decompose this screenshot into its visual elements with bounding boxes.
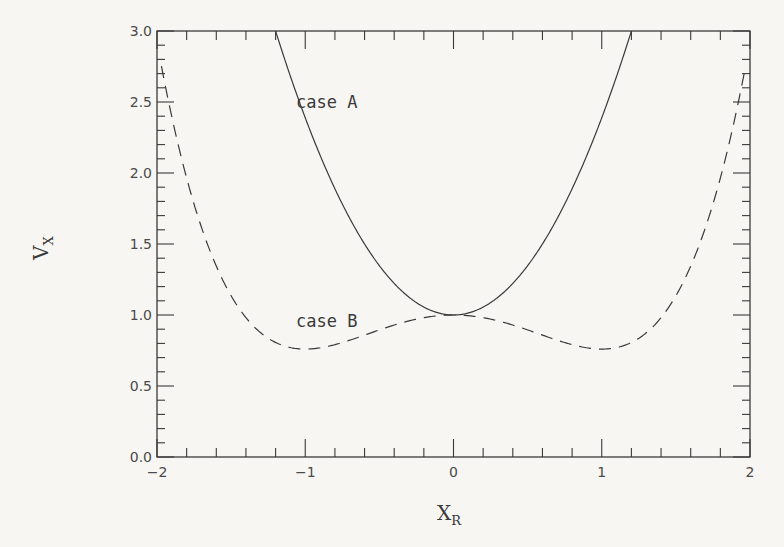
y-axis-label: VX — [29, 236, 56, 261]
svg-text:VX: VX — [29, 236, 56, 261]
tick-labels: −2−10120.00.51.01.52.02.53.0 — [130, 23, 755, 480]
y-axis-label-main: V — [29, 245, 53, 261]
tick-label: 1.0 — [130, 307, 152, 323]
y-axis-label-sub: X — [41, 236, 56, 246]
series-case-a — [276, 31, 632, 315]
annotation-case-b: case B — [296, 311, 357, 331]
annotation-case-a: case A — [296, 92, 357, 112]
tick-label: 0 — [449, 464, 458, 480]
x-axis-label: XR — [437, 501, 462, 528]
x-axis-label-main: X — [437, 501, 452, 525]
tick-label: 3.0 — [130, 23, 152, 39]
tick-label: −2 — [147, 464, 168, 480]
plot-frame — [157, 31, 750, 457]
tick-label: 2.5 — [130, 94, 152, 110]
tick-label: 1.5 — [130, 236, 152, 252]
chart: −2−10120.00.51.01.52.02.53.0 case A case… — [0, 0, 784, 547]
tick-label: 0.5 — [130, 378, 152, 394]
tick-label: 2.0 — [130, 165, 152, 181]
svg-text:XR: XR — [437, 501, 462, 528]
tick-label: 1 — [597, 464, 606, 480]
axis-ticks — [157, 31, 750, 457]
tick-label: 2 — [746, 464, 755, 480]
tick-label: 0.0 — [130, 449, 152, 465]
x-axis-label-sub: R — [451, 513, 462, 528]
series-case-b — [161, 66, 745, 349]
tick-label: −1 — [295, 464, 316, 480]
